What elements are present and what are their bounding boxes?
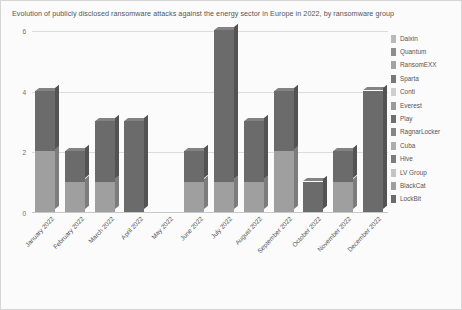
x-axis-label: May 2022 <box>150 215 174 240</box>
legend-swatch-icon <box>391 88 396 96</box>
legend-item[interactable]: LockBit <box>391 193 461 206</box>
x-axis-label: February 2022 <box>52 215 85 250</box>
legend-swatch-icon <box>391 48 396 56</box>
legend-item[interactable]: Quantum <box>391 45 461 58</box>
bar-segment[interactable] <box>274 91 294 152</box>
bar-segment[interactable] <box>184 182 204 212</box>
legend-label: BlackCat <box>400 182 426 190</box>
bar-group <box>32 31 388 212</box>
chart-legend: DaixinQuantumRansomEXXSpartaContiEverest… <box>391 32 461 206</box>
legend-label: Conti <box>400 88 415 96</box>
x-axis-line <box>32 212 388 213</box>
legend-item[interactable]: LV Group <box>391 166 461 179</box>
legend-item[interactable]: Conti <box>391 86 461 99</box>
legend-swatch-icon <box>391 155 396 163</box>
bar-segment[interactable] <box>35 91 55 152</box>
y-axis: 0246 <box>10 31 30 213</box>
bar-segment[interactable] <box>95 182 115 212</box>
legend-label: Cuba <box>400 142 415 150</box>
legend-label: RansomEXX <box>400 61 437 69</box>
legend-swatch-icon <box>391 128 396 136</box>
bar-column[interactable] <box>333 151 355 212</box>
chart-title: Evolution of publicly disclosed ransomwa… <box>12 9 452 19</box>
y-axis-tick-4: 4 <box>22 88 26 95</box>
legend-swatch-icon <box>391 195 396 203</box>
legend-swatch-icon <box>391 182 396 190</box>
bar-column[interactable] <box>274 91 296 212</box>
x-axis-label: April 2022 <box>120 215 145 241</box>
bar-segment[interactable] <box>303 182 323 212</box>
legend-label: RagnarLocker <box>400 128 440 136</box>
legend-item[interactable]: Everest <box>391 99 461 112</box>
legend-item[interactable]: RansomEXX <box>391 59 461 72</box>
bar-segment[interactable] <box>124 121 144 212</box>
bar-segment[interactable] <box>214 30 234 182</box>
bar-segment[interactable] <box>65 182 85 212</box>
bar-column[interactable] <box>124 121 146 212</box>
bar-segment[interactable] <box>65 151 85 181</box>
bar-column[interactable] <box>363 91 385 212</box>
grid-area <box>32 31 388 213</box>
legend-item[interactable]: Cuba <box>391 139 461 152</box>
x-axis-label: June 2022 <box>178 215 203 242</box>
bar-column[interactable] <box>214 30 236 212</box>
bar-segment[interactable] <box>95 121 115 182</box>
legend-swatch-icon <box>391 115 396 123</box>
legend-item[interactable]: BlackCat <box>391 179 461 192</box>
legend-label: LV Group <box>400 169 427 177</box>
legend-swatch-icon <box>391 75 396 83</box>
legend-label: Sparta <box>400 75 419 83</box>
legend-item[interactable]: Daixin <box>391 32 461 45</box>
legend-swatch-icon <box>391 35 396 43</box>
legend-swatch-icon <box>391 142 396 150</box>
bar-column[interactable] <box>35 91 57 212</box>
x-axis-label: August 2022 <box>234 215 264 246</box>
chart-container: Evolution of publicly disclosed ransomwa… <box>0 0 462 310</box>
plot-area: 0246 <box>10 31 388 226</box>
legend-item[interactable]: Hive <box>391 153 461 166</box>
bar-segment[interactable] <box>214 182 234 212</box>
y-axis-tick-2: 2 <box>22 149 26 156</box>
bar-segment[interactable] <box>244 182 264 212</box>
bar-segment[interactable] <box>333 151 353 181</box>
legend-item[interactable]: RagnarLocker <box>391 126 461 139</box>
bar-column[interactable] <box>95 121 117 212</box>
legend-label: LockBit <box>400 195 421 203</box>
legend-item[interactable]: Sparta <box>391 72 461 85</box>
legend-swatch-icon <box>391 61 396 69</box>
bar-column[interactable] <box>184 151 206 212</box>
legend-label: Hive <box>400 155 413 163</box>
bar-segment[interactable] <box>363 91 383 212</box>
bar-segment[interactable] <box>274 151 294 212</box>
bar-segment[interactable] <box>184 151 204 181</box>
y-axis-tick-6: 6 <box>22 28 26 35</box>
bar-column[interactable] <box>65 151 87 212</box>
y-axis-tick-0: 0 <box>22 210 26 217</box>
legend-label: Everest <box>400 102 422 110</box>
legend-item[interactable]: Play <box>391 112 461 125</box>
bar-segment[interactable] <box>244 121 264 182</box>
bar-segment[interactable] <box>333 182 353 212</box>
legend-swatch-icon <box>391 102 396 110</box>
legend-label: Quantum <box>400 48 426 56</box>
bar-column[interactable] <box>244 121 266 212</box>
legend-label: Daixin <box>400 35 418 43</box>
x-axis-label: October 2022 <box>291 215 323 248</box>
x-axis-label: July 2022 <box>210 215 234 240</box>
legend-swatch-icon <box>391 169 396 177</box>
bar-segment[interactable] <box>35 151 55 212</box>
bar-column[interactable] <box>303 182 325 212</box>
legend-label: Play <box>400 115 412 123</box>
x-axis-labels: January 2022February 2022March 2022April… <box>32 215 388 295</box>
x-axis-label: March 2022 <box>87 215 115 244</box>
